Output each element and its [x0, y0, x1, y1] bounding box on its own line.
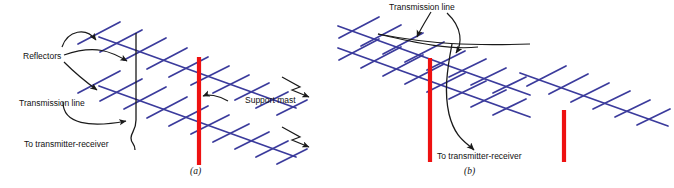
panel-b-feeder-wire	[446, 44, 474, 150]
panel-a-continuation-marks	[282, 77, 309, 147]
antenna-element	[235, 132, 269, 149]
reflector-element	[78, 22, 120, 44]
caption-panel-a: (a)	[190, 166, 201, 176]
antenna-element	[361, 47, 401, 68]
antenna-element	[213, 124, 249, 142]
leader-transmission-line-upper	[64, 50, 127, 61]
label-to-transmitter-receiver-b: To transmitter-receiver	[437, 152, 522, 161]
label-to-transmitter-receiver: To transmitter-receiver	[24, 140, 109, 149]
boom-line	[338, 48, 530, 117]
antenna-element	[493, 77, 526, 93]
antenna-element	[493, 99, 526, 115]
antenna-element	[339, 39, 379, 60]
panel-b-feed-lines	[378, 34, 530, 48]
continuation-arrow	[282, 127, 309, 147]
label-support-mast: Support mast	[245, 96, 296, 105]
antenna-element	[213, 75, 249, 93]
figure-canvas	[0, 0, 674, 188]
leader-support-mast	[203, 95, 228, 101]
label-transmission-line: Transmission line	[19, 99, 85, 108]
antenna-element	[361, 25, 401, 46]
antenna-array-figure: Reflectors Transmission line To transmit…	[0, 0, 674, 188]
antenna-element	[339, 17, 379, 38]
leader-transmission-line-upper	[417, 12, 431, 37]
leader-reflectors-upper	[62, 32, 96, 47]
continuation-arrow	[282, 77, 309, 97]
label-transmission-line-b: Transmission line	[389, 3, 455, 12]
caption-panel-b: (b)	[464, 166, 475, 176]
label-reflectors: Reflectors	[23, 52, 61, 61]
leader-reflectors-lower	[64, 62, 97, 90]
panel-b-antenna-array	[338, 12, 670, 162]
reflector-element	[78, 71, 120, 93]
panel-b-boom-right	[520, 66, 670, 126]
antenna-element	[256, 141, 288, 157]
boom-line	[520, 73, 668, 126]
boom-line	[338, 26, 530, 95]
panel-b-boom-lower	[338, 39, 530, 117]
